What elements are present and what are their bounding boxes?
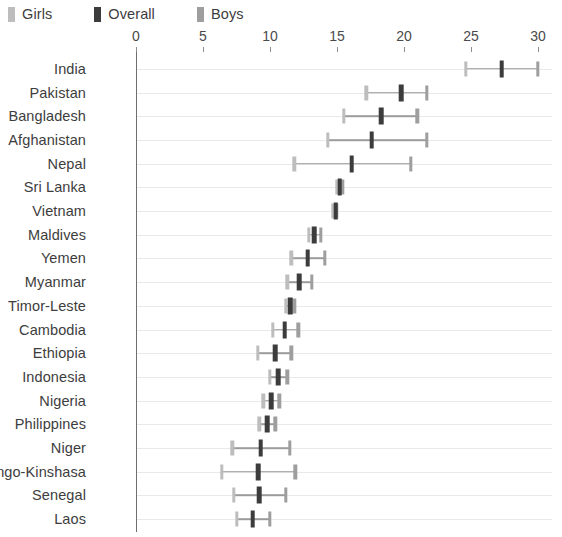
marker-boys	[292, 298, 295, 313]
chart-container: GirlsOverallBoys 051015202530 IndiaPakis…	[0, 0, 562, 537]
marker-boys	[319, 227, 322, 242]
marker-girls	[342, 109, 345, 124]
x-axis-tick-label: 5	[199, 28, 207, 44]
chart-row: Myanmar	[0, 270, 562, 294]
marker-girls	[292, 156, 295, 171]
marker-overall	[258, 440, 263, 457]
chart-row: Sri Lanka	[0, 176, 562, 200]
marker-overall	[379, 108, 384, 125]
gridline	[137, 519, 552, 520]
gridline	[137, 93, 552, 94]
marker-girls	[235, 512, 238, 527]
gridline	[137, 306, 552, 307]
legend-item-girls[interactable]: Girls	[8, 6, 52, 22]
chart-row: Congo-Kinshasa	[0, 460, 562, 484]
plot-area: IndiaPakistanBangladeshAfghanistanNepalS…	[0, 52, 562, 534]
chart-row: Ethiopia	[0, 341, 562, 365]
legend-label: Boys	[211, 6, 244, 22]
gridline	[137, 401, 552, 402]
marker-boys	[409, 156, 412, 171]
x-axis-tick-label: 15	[329, 28, 345, 44]
chart-row: Vietnam	[0, 199, 562, 223]
marker-boys	[296, 322, 299, 337]
category-label: Yemen	[41, 250, 86, 266]
marker-overall	[305, 250, 310, 267]
x-axis-tick-label: 25	[463, 28, 479, 44]
chart-row: Bangladesh	[0, 104, 562, 128]
marker-overall	[282, 321, 287, 338]
marker-boys	[288, 441, 291, 456]
marker-girls	[256, 346, 259, 361]
marker-overall	[269, 392, 274, 409]
chart-row: Cambodia	[0, 318, 562, 342]
marker-girls	[231, 441, 234, 456]
gridline	[137, 424, 552, 425]
category-label: Maldives	[28, 227, 86, 243]
marker-overall	[288, 297, 293, 314]
chart-row: Maldives	[0, 223, 562, 247]
category-label: Myanmar	[25, 274, 86, 290]
category-label: Bangladesh	[8, 108, 86, 124]
marker-overall	[312, 226, 317, 243]
marker-overall	[256, 463, 261, 480]
marker-overall	[250, 511, 255, 528]
category-label: Sri Lanka	[24, 179, 86, 195]
marker-girls	[365, 85, 368, 100]
gridline	[137, 495, 552, 496]
marker-overall	[257, 487, 262, 504]
category-label: Niger	[51, 440, 86, 456]
marker-boys	[323, 251, 326, 266]
legend-swatch-girls-icon	[8, 7, 15, 22]
chart-row: Niger	[0, 436, 562, 460]
x-axis-tick-labels: 051015202530	[0, 28, 562, 46]
gridline	[137, 448, 552, 449]
marker-girls	[326, 132, 329, 147]
chart-row: Yemen	[0, 247, 562, 271]
chart-row: Laos	[0, 507, 562, 531]
marker-girls	[258, 417, 261, 432]
gridline	[137, 377, 552, 378]
legend-swatch-overall-icon	[94, 7, 101, 22]
marker-overall	[337, 179, 342, 196]
marker-overall	[500, 60, 505, 77]
chart-row: Timor-Leste	[0, 294, 562, 318]
chart-row: Indonesia	[0, 365, 562, 389]
range-line	[328, 139, 427, 141]
legend-item-overall[interactable]: Overall	[94, 6, 155, 22]
chart-row: Nepal	[0, 152, 562, 176]
marker-boys	[425, 132, 428, 147]
x-axis-tick-label: 10	[262, 28, 278, 44]
chart-row: Senegal	[0, 484, 562, 508]
marker-boys	[286, 369, 289, 384]
marker-boys	[294, 464, 297, 479]
marker-boys	[536, 61, 539, 76]
marker-boys	[274, 417, 277, 432]
marker-girls	[464, 61, 467, 76]
gridline	[137, 353, 552, 354]
category-label: Indonesia	[22, 369, 86, 385]
category-label: Ethiopia	[33, 345, 86, 361]
category-label: Cambodia	[19, 322, 86, 338]
chart-legend: GirlsOverallBoys	[8, 4, 286, 24]
x-axis-tick-label: 20	[396, 28, 412, 44]
marker-girls	[271, 322, 274, 337]
gridline	[137, 472, 552, 473]
marker-boys	[425, 85, 428, 100]
category-label: Afghanistan	[8, 132, 86, 148]
legend-swatch-boys-icon	[197, 7, 204, 22]
category-label: India	[54, 61, 86, 77]
category-label: Laos	[54, 511, 86, 527]
legend-label: Girls	[22, 6, 52, 22]
gridline	[137, 282, 552, 283]
marker-overall	[349, 155, 354, 172]
category-label: Philippines	[15, 416, 86, 432]
chart-row: Nigeria	[0, 389, 562, 413]
marker-overall	[265, 416, 270, 433]
gridline	[137, 235, 552, 236]
category-label: Nepal	[48, 156, 86, 172]
marker-boys	[268, 512, 271, 527]
legend-item-boys[interactable]: Boys	[197, 6, 244, 22]
marker-girls	[262, 393, 265, 408]
gridline	[137, 330, 552, 331]
gridline	[137, 258, 552, 259]
